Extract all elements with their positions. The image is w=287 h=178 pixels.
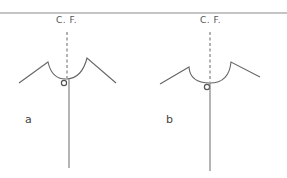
figure-b	[160, 32, 260, 171]
center-front-label-a: C. F.	[56, 15, 77, 25]
button-icon-b	[204, 84, 209, 89]
button-icon-a	[61, 80, 66, 85]
figure-a	[19, 32, 116, 168]
center-front-label-b: C. F.	[200, 15, 221, 25]
figure-caption-b: b	[166, 113, 173, 126]
figure-caption-a: a	[25, 113, 32, 126]
diagram-canvas	[0, 0, 287, 178]
